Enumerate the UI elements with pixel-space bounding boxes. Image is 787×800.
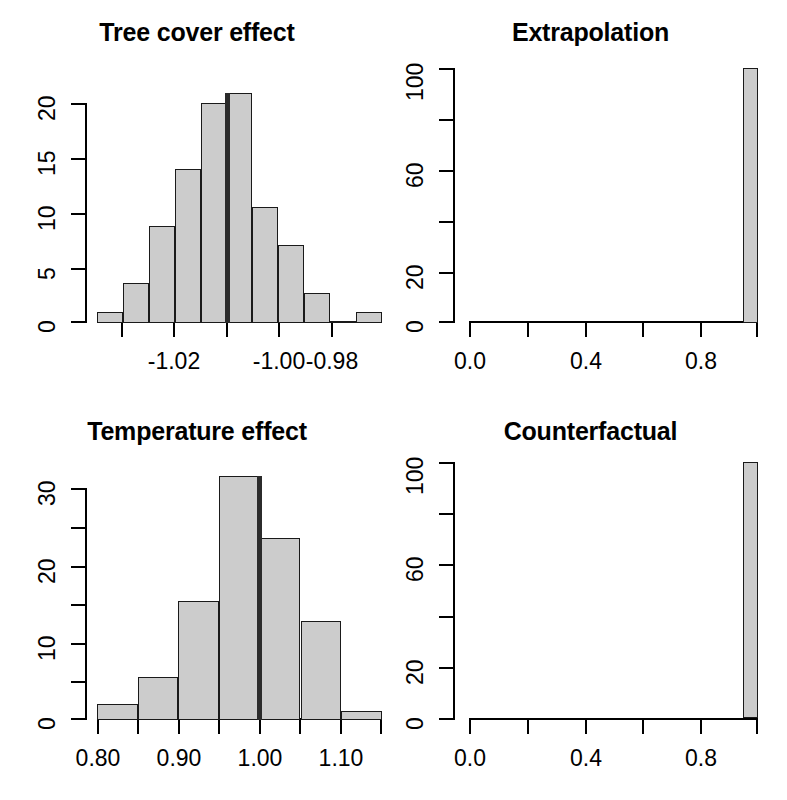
- x-axis-line: [469, 321, 758, 323]
- y-tick-label-0: 0: [34, 320, 61, 333]
- histogram-bar: [341, 711, 382, 720]
- histogram-bar: [227, 93, 253, 323]
- histogram-bar: [219, 476, 260, 720]
- y-tick-10: [71, 213, 87, 215]
- y-tick-20: [71, 103, 87, 105]
- y-tick-10: [71, 643, 87, 645]
- x-tick-0.95: [218, 718, 220, 734]
- y-tick-0: [439, 321, 455, 323]
- y-tick-40: [439, 221, 455, 223]
- x-tick-0.2: [527, 321, 529, 337]
- y-tick-label-10: 10: [34, 205, 61, 231]
- histogram-bar: [201, 103, 227, 323]
- panel-title-tree-cover-effect: Tree cover effect: [0, 18, 394, 47]
- y-tick-5: [71, 268, 87, 270]
- x-tick-1.00: [259, 718, 261, 734]
- y-tick-label-0: 0: [402, 717, 429, 730]
- y-tick-label-20: 20: [34, 558, 61, 584]
- histogram-bar: [149, 226, 175, 323]
- x-tick-label--1.02: -1.02: [113, 348, 235, 375]
- y-tick-80: [439, 119, 455, 121]
- x-tick-0.4: [585, 718, 587, 734]
- y-tick-0: [71, 718, 87, 720]
- panel-title-temperature-effect: Temperature effect: [0, 417, 394, 446]
- y-tick-40: [439, 616, 455, 618]
- y-tick-label-60: 60: [402, 556, 429, 582]
- x-tick-minor-2: [226, 321, 228, 337]
- histogram-bar: [175, 169, 201, 323]
- x-tick-1.10: [340, 718, 342, 734]
- histogram-bar: [304, 293, 330, 324]
- y-tick-label-10: 10: [34, 635, 61, 661]
- y-tick-20: [439, 272, 455, 274]
- y-tick-label-5: 5: [34, 267, 61, 280]
- x-tick-minor-1: [121, 321, 123, 337]
- histogram-bar: [123, 283, 149, 323]
- panel-tree-cover-effect: Tree cover effect 20 15 10 5 0 -1.02 -1.…: [0, 0, 394, 400]
- y-tick-60: [439, 564, 455, 566]
- histogram-bar: [330, 321, 356, 323]
- y-tick-100: [439, 462, 455, 464]
- y-tick-label-60: 60: [402, 162, 429, 188]
- y-tick-label-20: 20: [402, 264, 429, 290]
- y-tick-20: [439, 667, 455, 669]
- x-tick-1.0: [756, 321, 758, 337]
- x-tick-0.80: [97, 718, 99, 734]
- y-tick-20: [71, 566, 87, 568]
- y-tick-80: [439, 513, 455, 515]
- reference-vline: [257, 476, 262, 720]
- x-tick-label-0.4: 0.4: [525, 745, 647, 772]
- x-tick-1.15: [380, 718, 382, 734]
- histogram-bar: [260, 538, 301, 720]
- y-tick-label-100: 100: [402, 457, 429, 495]
- x-tick-label-0.8: 0.8: [640, 348, 762, 375]
- x-tick-0.8: [700, 321, 702, 337]
- histogram-bar: [743, 68, 758, 323]
- x-tick-0.0: [469, 718, 471, 734]
- y-tick-60: [439, 170, 455, 172]
- histogram-bar: [138, 677, 179, 721]
- x-tick-0.6: [642, 718, 644, 734]
- y-tick-5: [71, 681, 87, 683]
- x-tick-label-1.10: 1.10: [280, 745, 402, 772]
- panel-title-extrapolation: Extrapolation: [394, 18, 787, 47]
- x-tick-0.8: [700, 718, 702, 734]
- y-axis-line: [453, 462, 455, 718]
- panel-title-counterfactual: Counterfactual: [394, 417, 787, 446]
- y-tick-15: [71, 158, 87, 160]
- y-tick-label-15: 15: [34, 150, 61, 176]
- x-tick-0.4: [585, 321, 587, 337]
- histogram-bar: [97, 704, 138, 720]
- x-tick-1.0: [756, 718, 758, 734]
- y-tick-25: [71, 527, 87, 529]
- x-tick-label--0.98: -0.98: [271, 348, 393, 375]
- y-tick-100: [439, 68, 455, 70]
- y-tick-label-30: 30: [34, 480, 61, 506]
- x-tick-0.6: [642, 321, 644, 337]
- y-axis-line: [453, 68, 455, 323]
- histogram-bar: [178, 601, 219, 721]
- y-tick-label-100: 100: [402, 63, 429, 101]
- figure-canvas: Tree cover effect 20 15 10 5 0 -1.02 -1.…: [0, 0, 787, 800]
- x-tick-label-0.0: 0.0: [409, 745, 531, 772]
- y-tick-0: [71, 321, 87, 323]
- y-tick-label-20: 20: [34, 95, 61, 121]
- histogram-bar: [97, 312, 123, 324]
- panel-extrapolation: Extrapolation 100 60 20 0 0.0 0.4 0.8: [394, 0, 787, 400]
- y-tick-15: [71, 604, 87, 606]
- x-tick-label-0.0: 0.0: [409, 348, 531, 375]
- y-tick-label-0: 0: [402, 320, 429, 333]
- x-tick-0.85: [137, 718, 139, 734]
- histogram-bar: [743, 462, 758, 718]
- x-tick-1.05: [299, 718, 301, 734]
- x-tick-label-0.8: 0.8: [640, 745, 762, 772]
- x-axis-line: [469, 718, 758, 720]
- x-tick-0.90: [178, 718, 180, 734]
- y-tick-label-20: 20: [402, 659, 429, 685]
- panel-temperature-effect: Temperature effect 30 20 10 0 0.80 0.90 …: [0, 400, 394, 800]
- panel-counterfactual: Counterfactual 100 60 20 0 0.0 0.4 0.8: [394, 400, 787, 800]
- x-tick-label-0.4: 0.4: [525, 348, 647, 375]
- histogram-bar: [356, 312, 382, 324]
- x-tick-0.0: [469, 321, 471, 337]
- y-tick-label-0: 0: [34, 717, 61, 730]
